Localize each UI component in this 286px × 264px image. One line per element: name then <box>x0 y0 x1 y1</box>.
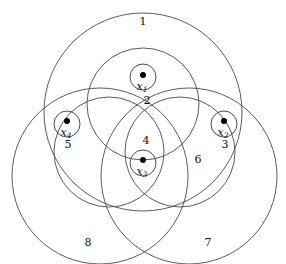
region-labels-group: 1 2 3 4 5 6 7 8 <box>65 15 229 249</box>
region-label-8: 8 <box>85 236 92 249</box>
big-circle-left <box>12 88 188 264</box>
region-label-2: 2 <box>144 94 151 107</box>
big-circle-right <box>101 88 277 264</box>
point-label-x3-sub: 3 <box>143 170 148 179</box>
point-label-x1: x1 <box>137 80 148 94</box>
medium-circles-group <box>54 48 235 207</box>
point-dot-x3 <box>140 157 146 163</box>
point-label-x3: x3 <box>137 165 148 179</box>
medium-circle-left <box>54 97 164 207</box>
medium-circle-right <box>125 97 235 207</box>
point-dot-x4 <box>64 118 70 124</box>
venn-diagram-figure: x1 x2 x3 x4 1 2 3 4 5 6 7 8 <box>0 0 286 264</box>
region-label-3: 3 <box>222 138 229 151</box>
venn-diagram-canvas: x1 x2 x3 x4 1 2 3 4 5 6 7 8 <box>0 0 286 264</box>
region-label-7: 7 <box>205 236 212 249</box>
point-label-x1-sub: 1 <box>143 85 148 94</box>
point-dot-x2 <box>221 118 227 124</box>
region-label-6: 6 <box>195 153 202 166</box>
region-label-1: 1 <box>140 15 147 28</box>
region-label-4: 4 <box>143 134 150 147</box>
point-dot-x1 <box>140 72 146 78</box>
big-circle-top <box>44 13 242 211</box>
region-label-5: 5 <box>65 138 72 151</box>
